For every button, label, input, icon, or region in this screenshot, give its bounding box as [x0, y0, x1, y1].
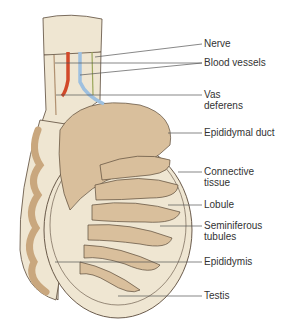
- label-epididymis: Epididymis: [204, 256, 252, 267]
- label-seminiferous-tubules: Seminiferoustubules: [204, 220, 262, 242]
- label-epididymal-duct: Epididymal duct: [204, 127, 275, 138]
- label-vas-deferens: Vasdeferens: [204, 89, 243, 111]
- label-testis: Testis: [204, 290, 230, 301]
- label-nerve: Nerve: [204, 38, 231, 49]
- spermatic-cord-cap: [43, 15, 102, 56]
- testis-diagram: [0, 0, 293, 325]
- label-blood-vessels: Blood vessels: [204, 57, 266, 68]
- label-connective-tissue: Connectivetissue: [204, 166, 254, 188]
- label-lobule: Lobule: [204, 199, 234, 210]
